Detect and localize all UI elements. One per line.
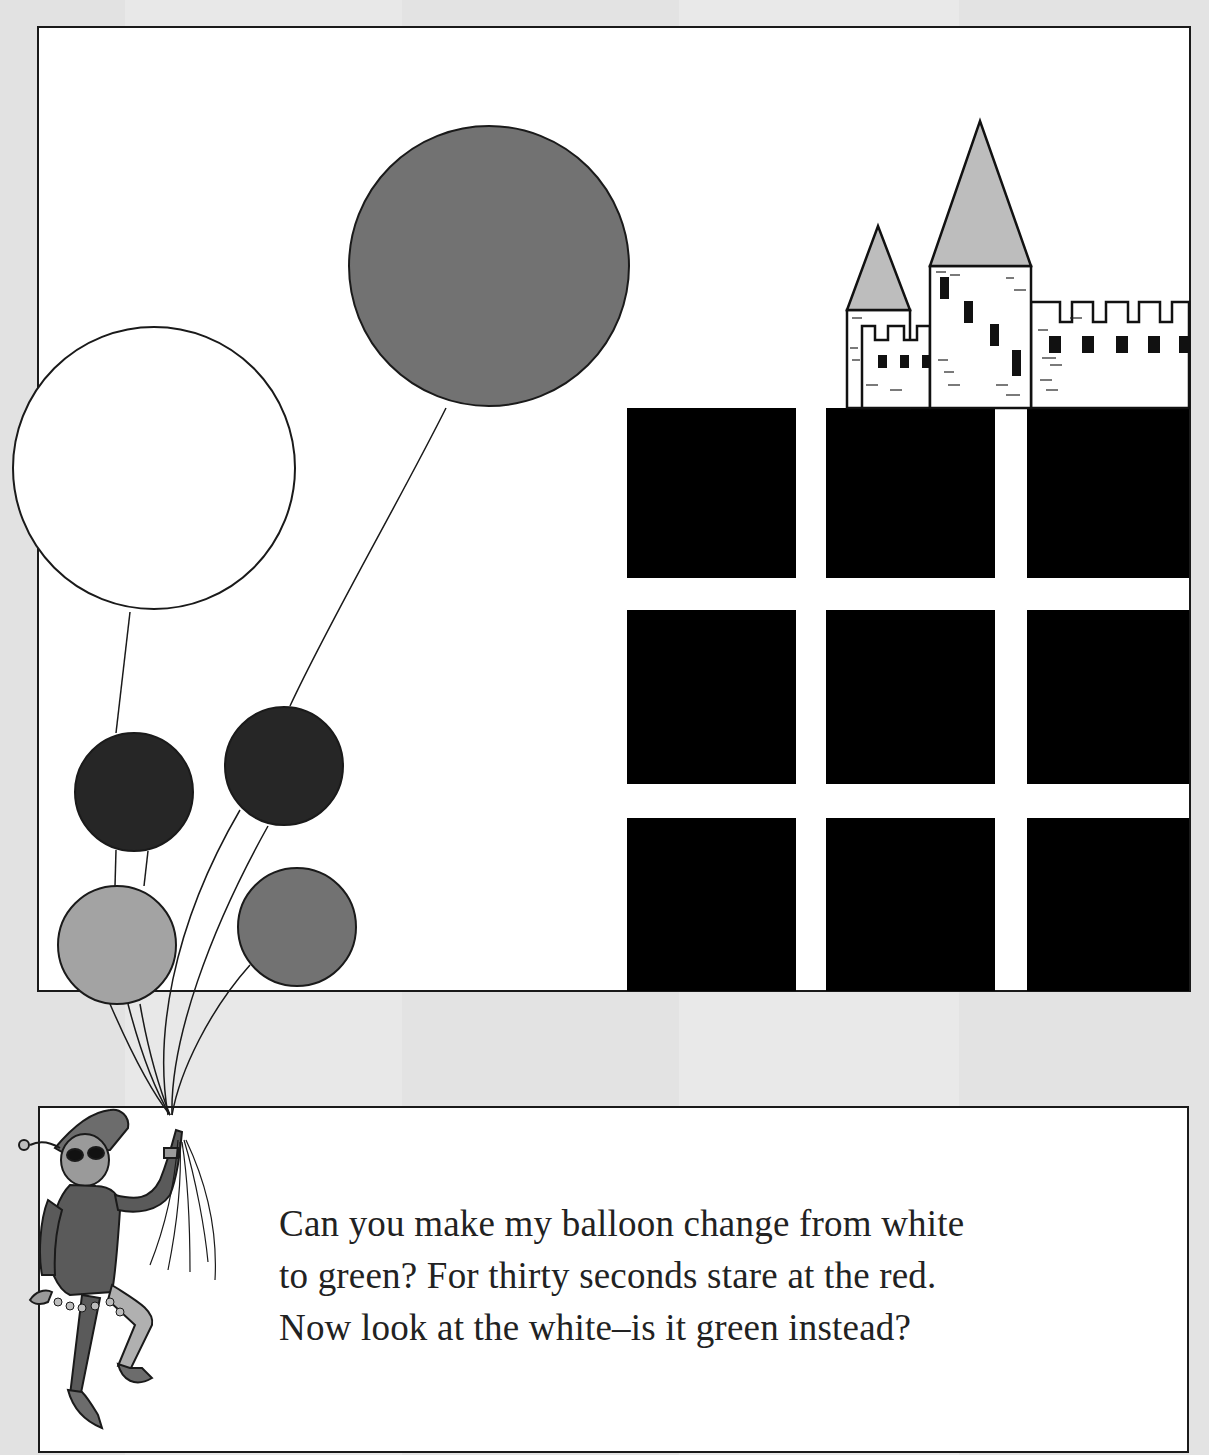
castle-inner-wall [862, 326, 930, 408]
grid-block [826, 408, 995, 578]
dark-balloon-left [75, 733, 193, 851]
grid-block [627, 610, 796, 784]
castle-small-spire [847, 226, 910, 310]
jester-face [61, 1134, 109, 1186]
jester-shoe-right [118, 1364, 152, 1382]
light-gray-balloon [58, 886, 176, 1004]
big-gray-balloon [349, 126, 629, 406]
balloons [13, 126, 629, 1004]
black-grid [627, 408, 1189, 991]
grid-block [627, 408, 796, 578]
grid-block [627, 818, 796, 991]
jester-body [48, 1185, 120, 1295]
grid-block [826, 818, 995, 991]
caption-line: Can you make my balloon change from whit… [279, 1198, 1139, 1250]
jester-arm-raised [115, 1130, 182, 1212]
white-balloon [13, 327, 295, 609]
castle-big-spire [930, 121, 1031, 266]
castle-right-wall [1031, 302, 1189, 408]
grid-block [1027, 408, 1189, 578]
sunglasses-icon [67, 1149, 83, 1161]
jester-figure [19, 1110, 215, 1428]
grid-block [1027, 818, 1189, 991]
caption-line: Now look at the white–is it green instea… [279, 1302, 1139, 1354]
caption-text: Can you make my balloon change from whit… [279, 1198, 1139, 1354]
caption-line: to green? For thirty seconds stare at th… [279, 1250, 1139, 1302]
hat-bell-icon [19, 1140, 29, 1150]
dark-balloon-right [225, 707, 343, 825]
grid-block [826, 610, 995, 784]
jester-leg-right [108, 1285, 152, 1370]
medium-gray-balloon [238, 868, 356, 986]
grid-block [1027, 610, 1189, 784]
jester-shoe-left [68, 1390, 102, 1428]
